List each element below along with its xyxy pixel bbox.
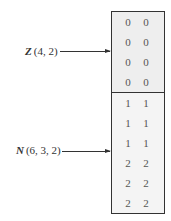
cell: 2 (122, 153, 134, 173)
cell: 1 (140, 113, 152, 133)
cell: 2 (140, 193, 152, 213)
cell: 0 (122, 52, 134, 72)
array-z-row: 0 0 (112, 72, 164, 92)
cell: 0 (122, 32, 134, 52)
array-name-z: Z (25, 45, 32, 57)
array-n-row: 1 1 (112, 93, 164, 113)
array-label-z: Z(4, 2) (25, 44, 58, 58)
cell: 2 (122, 173, 134, 193)
array-n-row: 2 2 (112, 193, 164, 213)
cell: 0 (140, 12, 152, 32)
array-dims-n: (6, 3, 2) (26, 144, 61, 156)
cell: 2 (140, 173, 152, 193)
cell: 2 (122, 193, 134, 213)
array-n-row: 2 2 (112, 173, 164, 193)
cell: 0 (122, 12, 134, 32)
array-n-block: 1 1 1 1 1 1 2 2 2 2 2 2 (112, 93, 164, 213)
array-n-row: 1 1 (112, 133, 164, 153)
cell: 0 (140, 32, 152, 52)
cell: 1 (122, 93, 134, 113)
cell: 1 (122, 113, 134, 133)
arrow-n-icon (62, 151, 110, 152)
array-dims-z: (4, 2) (34, 45, 58, 57)
cell: 1 (140, 133, 152, 153)
arrow-z-icon (60, 51, 110, 52)
array-z-row: 0 0 (112, 12, 164, 32)
array-z-row: 0 0 (112, 52, 164, 72)
cell: 1 (140, 93, 152, 113)
memory-block: 0 0 0 0 0 0 0 0 1 1 1 1 1 1 2 2 (111, 11, 165, 214)
array-z-block: 0 0 0 0 0 0 0 0 (112, 12, 164, 93)
cell: 0 (140, 72, 152, 92)
array-name-n: N (16, 144, 24, 156)
cell: 0 (122, 72, 134, 92)
cell: 0 (140, 52, 152, 72)
array-n-row: 2 2 (112, 153, 164, 173)
cell: 2 (140, 153, 152, 173)
array-n-row: 1 1 (112, 113, 164, 133)
cell: 1 (122, 133, 134, 153)
array-label-n: N(6, 3, 2) (16, 143, 61, 157)
array-z-row: 0 0 (112, 32, 164, 52)
